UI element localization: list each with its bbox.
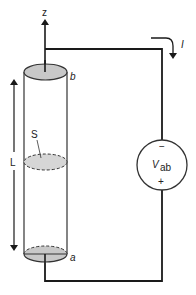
label-l: L (10, 157, 16, 168)
label-i: I (181, 39, 184, 50)
plus-terminal: + (158, 176, 164, 187)
label-s: S (31, 129, 38, 140)
circuit-wire-return (45, 190, 162, 281)
cylindrical-conductor (24, 60, 67, 262)
z-axis-label: z (42, 7, 47, 18)
minus-terminal: − (159, 141, 165, 152)
label-a: a (70, 252, 76, 263)
voltage-source: − V ab + (137, 140, 187, 190)
length-dimension: L (10, 82, 16, 248)
circuit-diagram: z b a S L I − V ab + (0, 0, 196, 295)
voltage-subscript: ab (160, 162, 172, 173)
current-arrow: I (151, 38, 184, 56)
circuit-wire (45, 49, 162, 140)
label-b: b (70, 71, 76, 82)
cross-section-s (24, 154, 67, 170)
